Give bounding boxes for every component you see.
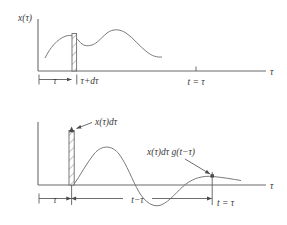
top-plot: τ τ+dτ t = τ x(τ) τ <box>17 13 274 87</box>
bottom-plot-response-annotation: x(τ)dτ g(t−τ) <box>146 147 195 158</box>
convolution-figure: τ τ+dτ t = τ x(τ) τ x(τ)dτ x(τ)dτ g(t−τ) <box>0 0 287 225</box>
top-plot-tau-label: τ <box>53 76 57 86</box>
figure-canvas: τ τ+dτ t = τ x(τ) τ x(τ)dτ x(τ)dτ g(t−τ) <box>0 0 287 225</box>
top-plot-impulse-strip <box>72 34 77 72</box>
bottom-plot-impulse-arrowhead <box>69 126 74 132</box>
top-plot-y-axis-label: x(τ) <box>17 13 32 24</box>
bottom-plot-impulse-leader-line <box>77 123 93 129</box>
bottom-plot-tau-dimension-label: τ <box>53 195 57 205</box>
top-plot-x-axis-label: τ <box>270 67 274 77</box>
top-plot-tau-plus-dtau-label: τ+dτ <box>81 76 100 86</box>
bottom-plot-impulse-bar <box>69 131 74 186</box>
bottom-plot-response-leader-line <box>185 159 210 174</box>
top-plot-t-equals-tau-label: t = τ <box>187 77 205 87</box>
bottom-plot-x-axis-label: τ <box>270 181 274 191</box>
top-plot-signal-curve <box>45 30 162 58</box>
bottom-plot-impulse-annotation: x(τ)dτ <box>94 117 118 128</box>
bottom-plot-t-equals-tau-label: t = τ <box>217 198 235 208</box>
bottom-plot: x(τ)dτ x(τ)dτ g(t−τ) τ t−τ t = τ τ <box>38 117 274 209</box>
bottom-plot-t-minus-tau-label: t−τ <box>131 195 144 205</box>
